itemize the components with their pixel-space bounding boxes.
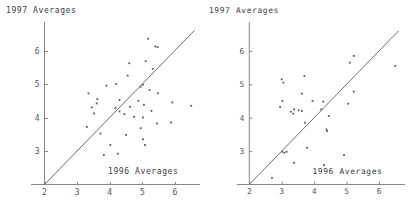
data-point bbox=[156, 123, 158, 125]
x-tick-label: 4 bbox=[107, 188, 112, 197]
data-point bbox=[142, 84, 144, 86]
reference-line-group-right bbox=[249, 31, 398, 185]
data-point bbox=[142, 138, 144, 140]
y-tick-label: 4 bbox=[240, 114, 245, 123]
data-point bbox=[271, 177, 273, 179]
data-point bbox=[283, 152, 285, 154]
data-point bbox=[301, 110, 303, 112]
data-point bbox=[151, 110, 153, 112]
data-point bbox=[353, 91, 355, 93]
y-tick-label: 5 bbox=[35, 80, 40, 89]
data-point bbox=[292, 113, 294, 115]
data-point bbox=[123, 113, 125, 115]
y-tick-label: 3 bbox=[240, 147, 245, 156]
y-tick-label: 6 bbox=[240, 47, 245, 56]
data-point bbox=[125, 134, 127, 136]
data-point bbox=[96, 98, 98, 100]
data-point bbox=[320, 108, 322, 110]
x-tick-label: 5 bbox=[140, 188, 145, 197]
data-point bbox=[100, 133, 102, 135]
x-tick-label: 5 bbox=[344, 187, 349, 196]
data-point bbox=[129, 106, 131, 108]
data-point bbox=[145, 60, 147, 62]
data-point bbox=[127, 75, 129, 77]
x-tick-label: 2 bbox=[247, 187, 252, 196]
figure-container: 234563456 1997 Averages 1996 Averages 23… bbox=[0, 0, 411, 201]
data-point bbox=[133, 116, 135, 118]
data-point bbox=[137, 100, 139, 102]
scatter-panel-right: 234563456 1997 Averages 1996 Averages bbox=[205, 0, 410, 201]
data-point bbox=[154, 46, 156, 48]
x-tick-label: 6 bbox=[377, 187, 382, 196]
data-point bbox=[347, 103, 349, 105]
data-point bbox=[106, 85, 108, 87]
data-point bbox=[293, 108, 295, 110]
data-point bbox=[326, 128, 328, 130]
x-tick-label: 6 bbox=[172, 188, 177, 197]
data-point bbox=[281, 78, 283, 80]
data-point bbox=[115, 83, 117, 85]
data-point bbox=[394, 65, 396, 67]
data-point bbox=[281, 151, 283, 153]
data-point bbox=[149, 89, 151, 91]
data-point bbox=[170, 122, 172, 124]
data-point bbox=[353, 55, 355, 57]
data-point bbox=[96, 103, 98, 105]
data-point bbox=[143, 104, 145, 106]
data-point bbox=[290, 111, 292, 113]
data-point bbox=[328, 115, 330, 117]
x-axis-title-right: 1996 Averages bbox=[312, 167, 382, 176]
y-axis-title-left: 1997 Averages bbox=[6, 6, 76, 15]
x-tick-label: 3 bbox=[279, 187, 284, 196]
data-point bbox=[119, 111, 121, 113]
data-point bbox=[326, 130, 328, 132]
data-point bbox=[152, 68, 154, 70]
data-point bbox=[103, 154, 105, 156]
data-point bbox=[286, 151, 288, 153]
reference-line-group-left bbox=[45, 30, 195, 184]
y-tick-label: 3 bbox=[35, 147, 40, 156]
data-point bbox=[128, 62, 130, 64]
data-point bbox=[93, 113, 95, 115]
data-point-group-right bbox=[271, 55, 396, 179]
data-point bbox=[306, 147, 308, 149]
data-point bbox=[343, 154, 345, 156]
data-point bbox=[140, 127, 142, 129]
data-point bbox=[312, 100, 314, 102]
data-point bbox=[147, 38, 149, 40]
data-point bbox=[140, 86, 142, 88]
x-tick-label: 2 bbox=[42, 188, 47, 197]
data-point bbox=[293, 162, 295, 164]
y-tick-label: 6 bbox=[35, 47, 40, 56]
scatter-plot-left-svg: 234563456 1997 Averages 1996 Averages bbox=[0, 0, 205, 201]
y-tick-label: 4 bbox=[35, 114, 40, 123]
identity-reference-line bbox=[249, 31, 398, 185]
data-point bbox=[144, 144, 146, 146]
y-tick-label: 5 bbox=[240, 80, 245, 89]
data-point bbox=[323, 164, 325, 166]
data-point bbox=[304, 122, 306, 124]
data-point bbox=[142, 117, 144, 119]
scatter-plot-right-svg: 234563456 1997 Averages 1996 Averages bbox=[205, 0, 410, 201]
data-point bbox=[304, 75, 306, 77]
data-point bbox=[281, 100, 283, 102]
data-point bbox=[115, 107, 117, 109]
data-point bbox=[322, 101, 324, 103]
data-point bbox=[349, 62, 351, 64]
data-point bbox=[88, 92, 90, 94]
data-point bbox=[119, 99, 121, 101]
data-point bbox=[157, 92, 159, 94]
axes-left bbox=[31, 22, 200, 185]
x-axis-title-left: 1996 Averages bbox=[108, 167, 178, 176]
data-point bbox=[91, 107, 93, 109]
data-point bbox=[282, 82, 284, 84]
data-point bbox=[109, 144, 111, 146]
data-point bbox=[117, 153, 119, 155]
y-axis-title-right: 1997 Averages bbox=[209, 6, 279, 15]
data-point bbox=[298, 109, 300, 111]
x-tick-label: 4 bbox=[312, 187, 317, 196]
data-point bbox=[190, 105, 192, 107]
data-point-group-left bbox=[86, 38, 192, 156]
identity-reference-line bbox=[45, 30, 195, 184]
scatter-panel-left: 234563456 1997 Averages 1996 Averages bbox=[0, 0, 205, 201]
